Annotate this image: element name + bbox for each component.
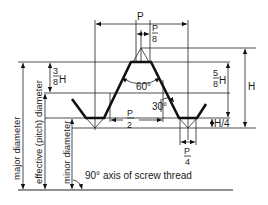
five-eighths-den: 8 [213, 79, 218, 89]
axis-note: 90° axis of screw thread [85, 170, 192, 181]
minor-diameter-label: minor diameter [61, 121, 72, 184]
included-angle-label: 60° [136, 81, 151, 92]
half-pitch-num: P [127, 108, 133, 118]
five-eighths-num: 5 [213, 68, 218, 78]
pitch-label: P [137, 11, 144, 22]
effective-diameter-label: effective (pitch) diameter [33, 80, 44, 184]
right-angle-arc [73, 180, 82, 189]
three-eighths-den: 8 [53, 77, 58, 87]
three-eighths-suffix: H [59, 74, 66, 85]
five-eighths-suffix: H [219, 75, 226, 86]
half-pitch-den: 2 [127, 120, 132, 130]
flank-angle-label: 30° [152, 101, 167, 112]
height-label: H [248, 81, 255, 92]
root-flat-den: 4 [185, 157, 190, 167]
major-diameter-label: major diameter [11, 117, 22, 180]
crest-flat-num: P [152, 23, 158, 33]
root-flat-num: P [184, 146, 190, 156]
quarter-h-label: H/4 [214, 118, 230, 129]
three-eighths-num: 3 [53, 66, 58, 76]
crest-flat-den: 8 [152, 34, 157, 44]
screw-thread-diagram: P P 8 3 8 H 5 8 H H H/4 P 2 P 4 60° 30° … [0, 0, 268, 205]
